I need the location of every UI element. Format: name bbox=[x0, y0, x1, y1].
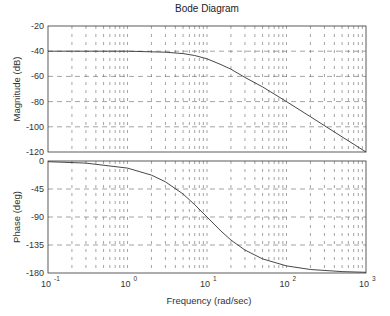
x-tick-label: 10 bbox=[200, 279, 210, 289]
y-tick-label: -60 bbox=[31, 71, 44, 81]
x-tick-label: 10 bbox=[279, 279, 289, 289]
x-tick-label: 10 bbox=[120, 279, 130, 289]
x-axis-label: Frequency (rad/sec) bbox=[166, 295, 251, 306]
x-tick-exponent: -1 bbox=[54, 275, 60, 282]
phase-panel: 0-45-90-135-180 bbox=[26, 156, 366, 278]
y-tick-label: -135 bbox=[26, 240, 44, 250]
x-tick-exponent: 2 bbox=[293, 275, 297, 282]
y-tick-label: 0 bbox=[39, 156, 44, 166]
y-tick-label: -80 bbox=[31, 97, 44, 107]
x-tick-exponent: 0 bbox=[134, 275, 138, 282]
phase-y-axis-label: Phase (deg) bbox=[11, 191, 22, 243]
magnitude-panel: -20-40-60-80-100-120 bbox=[26, 21, 366, 157]
magnitude-y-axis-label: Magnitude (dB) bbox=[11, 57, 22, 122]
x-tick-label: 10 bbox=[359, 279, 369, 289]
y-tick-label: -20 bbox=[31, 21, 44, 31]
x-tick-exponent: 3 bbox=[372, 275, 376, 282]
x-tick-label: 10 bbox=[41, 279, 51, 289]
y-tick-label: -100 bbox=[26, 122, 44, 132]
bode-diagram: Bode Diagram -20-40-60-80-100-120 0-45-9… bbox=[0, 0, 390, 316]
chart-title: Bode Diagram bbox=[175, 3, 239, 14]
y-tick-label: -40 bbox=[31, 46, 44, 56]
y-tick-label: -180 bbox=[26, 268, 44, 278]
y-tick-label: -90 bbox=[31, 212, 44, 222]
x-tick-exponent: 1 bbox=[213, 275, 217, 282]
y-tick-label: -45 bbox=[31, 184, 44, 194]
